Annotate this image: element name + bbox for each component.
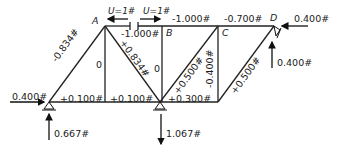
force-vertical-b: 0	[154, 64, 160, 74]
force-top-cd: -0.700#	[224, 14, 263, 24]
right-support-icon	[274, 26, 281, 38]
force-left-reaction: 0.667#	[54, 129, 89, 139]
force-top-bc: -1.000#	[172, 14, 211, 24]
joint-label-d: D	[270, 13, 277, 23]
joint-label-b: B	[166, 28, 173, 38]
force-bottom-1: +0.100#	[60, 94, 103, 104]
force-bottom-2: +0.100#	[110, 94, 153, 104]
force-right-horizontal: 0.400#	[294, 14, 329, 24]
force-vertical-c: -0.400#	[205, 49, 215, 88]
force-mid-reaction: 1.067#	[166, 129, 201, 139]
virtual-load-left: U=1#	[108, 7, 135, 16]
virtual-load-right: U=1#	[143, 7, 170, 16]
left-support-icon	[42, 102, 56, 110]
mid-support-icon	[153, 102, 167, 110]
joint-label-c: C	[222, 28, 229, 38]
force-vertical-a: 0	[96, 60, 102, 70]
force-left-horizontal: 0.400#	[12, 92, 47, 102]
force-bottom-3: +0.300#	[168, 94, 211, 104]
force-right-reaction: 0.400#	[277, 58, 312, 68]
joint-label-a: A	[92, 16, 99, 26]
